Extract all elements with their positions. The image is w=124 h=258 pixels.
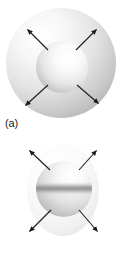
panel-a-label: (a) <box>5 118 18 129</box>
panel-a-graphic <box>0 0 124 132</box>
panel-b: (b) <box>0 132 124 258</box>
panel-a: (a) <box>0 0 124 132</box>
panel-b-graphic <box>0 132 124 258</box>
inner-sphere <box>36 41 88 93</box>
equator-band <box>34 182 94 195</box>
figure-root: (a) <box>0 0 124 258</box>
